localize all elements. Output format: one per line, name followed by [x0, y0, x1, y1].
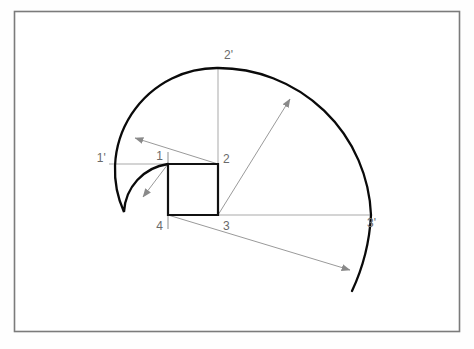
page-frame — [15, 12, 460, 332]
label-point-3: 3 — [223, 219, 230, 233]
label-point-1: 1 — [156, 149, 163, 163]
label-point-2-prime: 2' — [224, 48, 233, 62]
label-point-2: 2 — [223, 152, 230, 166]
drawing-canvas: 1 2 3 4 1' 2' 3' — [0, 0, 474, 349]
label-point-3-prime: 3' — [367, 216, 376, 230]
label-point-1-prime: 1' — [97, 151, 106, 165]
spiral-construction-figure: 1 2 3 4 1' 2' 3' — [0, 0, 474, 349]
label-point-4: 4 — [156, 219, 163, 233]
